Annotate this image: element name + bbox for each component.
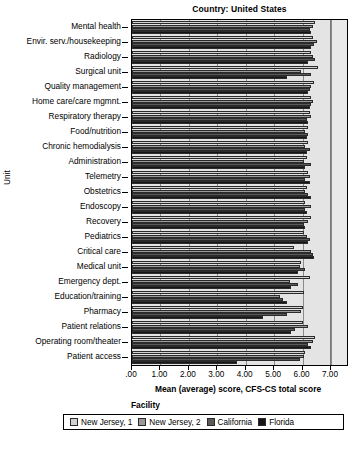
bar-group [132,245,330,260]
y-tick-label: Pharmacy [84,307,121,316]
y-tick-label: Home care/care mgmnt. [32,97,121,106]
y-tick [122,237,128,238]
bar [132,301,287,304]
y-tick-label: Surgical unit [75,67,121,76]
legend-item[interactable]: New Jersey, 1 [70,418,132,427]
bar-group [132,305,330,320]
bar-group [132,125,330,140]
y-tick [122,87,128,88]
bar [132,166,305,169]
y-tick [122,297,128,298]
bar-group [132,200,330,215]
x-tick-label: 3.00 [201,370,231,379]
bar-group [132,335,330,350]
bar [132,271,298,274]
bar [132,136,307,139]
y-tick [122,117,128,118]
bar [132,346,311,349]
x-tick-label: .00 [116,370,146,379]
y-axis-labels: Mental healthEnvir. serv./housekeepingRa… [0,19,128,366]
legend-item[interactable]: Florida [258,418,294,427]
bar [132,91,308,94]
legend-label: New Jersey, 1 [81,418,132,427]
plot-area [131,19,348,366]
legend-item[interactable]: California [207,418,253,427]
bar [132,106,310,109]
y-tick [122,57,128,58]
y-tick [122,192,128,193]
bar [132,61,308,64]
y-tick-label: Obstetrics [84,187,121,196]
figure-caption [6,443,356,451]
bar-group [132,185,330,200]
bar-group [132,170,330,185]
bar-group [132,110,330,125]
y-tick [122,282,128,283]
y-tick-label: Radiology [84,52,121,61]
y-tick [122,147,128,148]
bar [132,181,310,184]
legend-label: California [218,418,253,427]
chart-title: Country: United States [131,4,348,14]
legend-swatch [138,418,146,426]
y-tick [122,267,128,268]
y-tick [122,207,128,208]
bar-group [132,20,330,35]
bar [132,316,263,319]
legend-label: New Jersey, 2 [149,418,200,427]
x-axis-tick-labels: .001.002.003.004.005.006.007.00 [131,370,348,381]
y-tick-label: Endoscopy [80,202,121,211]
y-tick-label: Patient access [67,352,121,361]
bar-group [132,95,330,110]
bar [132,46,311,49]
bar [132,121,308,124]
x-tick-label: 7.00 [315,370,345,379]
bar [132,331,291,334]
bar-group [132,350,330,365]
bar [132,76,287,79]
bar-group [132,275,330,290]
y-tick [122,162,128,163]
y-tick-label: Emergency dept. [58,277,121,286]
bar [132,31,311,34]
y-tick-label: Medical unit [77,262,121,271]
bar [132,196,311,199]
bar [132,256,314,259]
y-tick [122,102,128,103]
bar [132,286,291,289]
bar-group [132,35,330,50]
bar-group [132,290,330,305]
y-tick-label: Pediatrics [85,232,121,241]
y-tick-label: Envir. serv./housekeeping [27,37,121,46]
bar-group [132,140,330,155]
x-tick-label: 5.00 [258,370,288,379]
x-tick-label: 6.00 [287,370,317,379]
y-tick [122,177,128,178]
x-tick-label: 1.00 [144,370,174,379]
y-tick-label: Respiratory therapy [49,112,121,121]
y-tick [122,342,128,343]
legend-item[interactable]: New Jersey, 2 [138,418,200,427]
y-tick-label: Recovery [86,217,121,226]
bar [132,241,308,244]
bar [132,361,237,364]
y-tick-label: Critical care [77,247,121,256]
y-tick [122,132,128,133]
y-tick-label: Chronic hemodialysis [42,142,121,151]
bar [132,151,307,154]
y-tick [122,327,128,328]
legend-swatch [258,418,266,426]
legend-swatch [70,418,78,426]
bar-group [132,50,330,65]
x-tick-label: 2.00 [173,370,203,379]
x-tick-label: 4.00 [230,370,260,379]
y-tick-label: Quality management [44,82,121,91]
y-tick-label: Food/nutrition [70,127,121,136]
chart-figure: Country: United States Unit Mental healt… [0,0,362,452]
legend-swatch [207,418,215,426]
y-tick [122,252,128,253]
legend-title: Facility [131,400,160,410]
y-tick-label: Mental health [71,22,121,31]
y-tick-label: Operating room/theater [35,337,121,346]
bar-group [132,260,330,275]
